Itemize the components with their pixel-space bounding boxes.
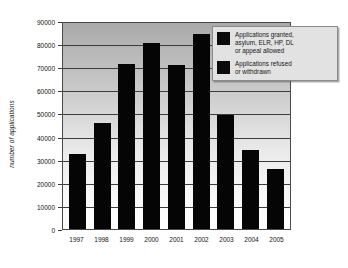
legend-swatch-granted (217, 32, 230, 45)
y-tick-label: 80000 (9, 42, 55, 49)
x-tick-label-1997: 1997 (68, 236, 85, 243)
bar-2002 (193, 34, 210, 229)
legend-item-granted: Applications granted, asylum, ELR, HP, D… (217, 31, 333, 56)
bar-1999 (118, 64, 135, 229)
y-tick-mark (58, 230, 62, 231)
bar-2003 (217, 115, 234, 229)
bar-2000 (143, 43, 160, 229)
x-axis-labels: 199719981999200020012002200320042005 (62, 236, 291, 243)
bar-2001 (168, 65, 185, 229)
bar-1998 (94, 123, 111, 229)
x-tick-label-1999: 1999 (118, 236, 135, 243)
legend-label-refused: Applications refused or withdrawn (235, 60, 292, 76)
y-tick-label: 40000 (9, 134, 55, 141)
x-tick-label-2002: 2002 (193, 236, 210, 243)
legend-item-refused: Applications refused or withdrawn (217, 60, 333, 76)
y-tick-label: 30000 (9, 157, 55, 164)
x-tick-label-2003: 2003 (218, 236, 235, 243)
legend-swatch-refused (217, 61, 230, 74)
bar-1997 (69, 154, 86, 229)
y-tick-label: 10000 (9, 203, 55, 210)
x-tick-label-2004: 2004 (243, 236, 260, 243)
bar-2004 (242, 150, 259, 229)
y-tick-label: 20000 (9, 180, 55, 187)
y-tick-label: 60000 (9, 88, 55, 95)
x-tick-label-2001: 2001 (168, 236, 185, 243)
chart-legend: Applications granted, asylum, ELR, HP, D… (212, 26, 338, 81)
y-tick-label: 0 (9, 227, 55, 234)
y-tick-label: 50000 (9, 111, 55, 118)
x-tick-label-2005: 2005 (268, 236, 285, 243)
bar-2005 (267, 169, 284, 229)
bar-chart: number of applications 01000020000300004… (0, 0, 348, 268)
y-tick-label: 70000 (9, 65, 55, 72)
x-tick-label-1998: 1998 (93, 236, 110, 243)
legend-label-granted: Applications granted, asylum, ELR, HP, D… (235, 31, 294, 56)
x-tick-label-2000: 2000 (143, 236, 160, 243)
y-tick-label: 90000 (9, 19, 55, 26)
